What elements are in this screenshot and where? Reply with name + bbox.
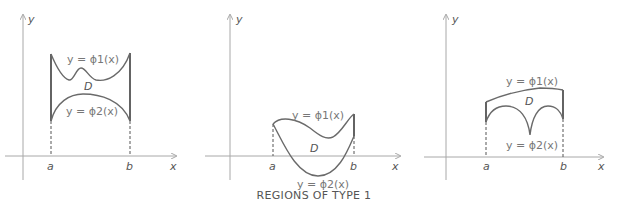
region-label: D <box>525 95 533 108</box>
upper-curve-label: y = ϕ1(x) <box>67 53 119 66</box>
panel-2: y a b x y = ϕ1(x) D y = ϕ2(x) <box>205 13 400 191</box>
b-label: b <box>560 160 567 173</box>
upper-curve-label: y = ϕ1(x) <box>506 75 558 88</box>
region-label: D <box>84 80 92 93</box>
y-axis-label: y <box>235 13 243 26</box>
panel-1: y a b x y = ϕ1(x) D y = ϕ2(x) <box>5 13 177 180</box>
b-label: b <box>126 160 133 173</box>
x-axis-label: x <box>391 160 399 173</box>
upper-curve-label: y = ϕ1(x) <box>292 109 344 122</box>
a-label: a <box>47 160 54 173</box>
lower-curve-label: y = ϕ2(x) <box>506 139 558 152</box>
y-axis-label: y <box>27 13 35 26</box>
y-axis-label: y <box>451 13 459 26</box>
region-label: D <box>310 142 318 155</box>
lower-curve <box>486 106 563 135</box>
type1-regions-diagram: y a b x y = ϕ1(x) D y = ϕ2(x) y a b x y … <box>0 0 628 209</box>
x-axis-label: x <box>169 160 177 173</box>
figure-caption: REGIONS OF TYPE 1 <box>0 189 628 202</box>
a-label: a <box>483 160 490 173</box>
a-label: a <box>269 160 276 173</box>
lower-curve-label: y = ϕ2(x) <box>66 105 118 118</box>
panel-3: y a b x y = ϕ1(x) D y = ϕ2(x) <box>424 13 605 180</box>
b-label: b <box>350 160 357 173</box>
x-axis-label: x <box>597 160 605 173</box>
